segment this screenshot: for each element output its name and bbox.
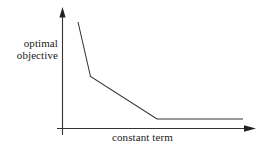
y-axis-arrowhead-icon xyxy=(59,7,65,18)
x-axis-label: constant term xyxy=(112,131,173,143)
data-curve xyxy=(78,22,243,119)
plot-area xyxy=(0,0,268,149)
figure-container: optimal objective constant term xyxy=(0,0,268,149)
y-axis-label-line-1: optimal xyxy=(0,37,58,49)
y-axis-label: optimal objective xyxy=(0,37,58,61)
y-axis-label-line-2: objective xyxy=(0,49,58,61)
x-axis-arrowhead-icon xyxy=(244,125,256,132)
